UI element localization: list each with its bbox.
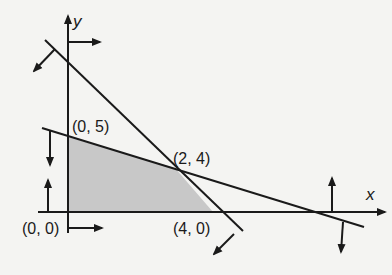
y-axis-label: y [72,12,83,31]
arrow-down-left-icon [214,234,234,254]
vertex-label-2-4: (2, 4) [173,150,210,167]
x-axis-label: x [365,185,375,204]
arrow-down-left-icon [34,49,55,71]
vertex-label-0-5: (0, 5) [72,118,109,135]
lp-diagram: y x (0, 0) (0, 5) (2, 4) (4, 0) [0,0,392,275]
arrow-down-icon [341,222,343,252]
vertex-label-4-0: (4, 0) [173,220,210,237]
vertex-label-origin: (0, 0) [22,220,59,237]
